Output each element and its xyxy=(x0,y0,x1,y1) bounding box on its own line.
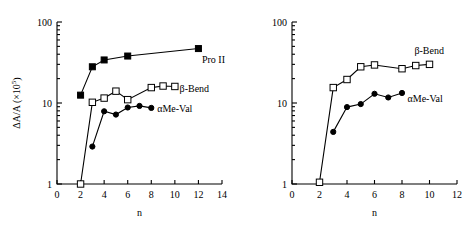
series-annotation-label: β-Bend xyxy=(180,83,210,94)
chart-svg: 024681012110100nβ-BendαMe-Val xyxy=(235,0,469,234)
y-tick-label: 10 xyxy=(277,98,287,109)
marker-filled-square xyxy=(78,92,84,98)
data-series xyxy=(77,83,178,187)
marker-open-square xyxy=(316,179,322,185)
marker-filled-square xyxy=(125,53,131,59)
marker-open-square xyxy=(399,66,405,72)
marker-open-square xyxy=(344,76,350,82)
marker-filled-circle xyxy=(358,101,363,106)
marker-filled-circle xyxy=(344,104,349,109)
marker-open-square xyxy=(101,95,107,101)
marker-filled-circle xyxy=(399,90,404,95)
marker-filled-circle xyxy=(125,105,130,110)
data-series xyxy=(316,61,432,185)
x-tick-label: 4 xyxy=(102,189,107,200)
x-tick-label: 10 xyxy=(170,189,180,200)
marker-open-square xyxy=(371,62,377,68)
axes: 02468101214110100 xyxy=(37,17,227,201)
marker-open-square xyxy=(172,83,178,89)
series-line xyxy=(320,64,430,182)
x-tick-label: 12 xyxy=(452,189,462,200)
y-tick-label: 100 xyxy=(37,17,52,28)
y-tick-label: 1 xyxy=(47,179,52,190)
data-series xyxy=(331,90,405,134)
marker-filled-circle xyxy=(113,112,118,117)
marker-filled-square xyxy=(101,57,107,63)
x-tick-label: 6 xyxy=(372,189,377,200)
x-axis-title: n xyxy=(137,207,142,218)
x-tick-label: 0 xyxy=(290,189,295,200)
marker-filled-circle xyxy=(137,103,142,108)
y-tick-label: 10 xyxy=(42,98,52,109)
x-tick-label: 8 xyxy=(400,189,405,200)
data-series xyxy=(90,103,154,149)
x-tick-label: 8 xyxy=(149,189,154,200)
series-annotation-label: αMe-Val xyxy=(408,93,443,104)
x-tick-label: 14 xyxy=(217,189,227,200)
marker-open-square xyxy=(148,84,154,90)
x-tick-label: 12 xyxy=(193,189,203,200)
x-tick-label: 6 xyxy=(125,189,130,200)
marker-filled-circle xyxy=(386,95,391,100)
marker-filled-square xyxy=(89,64,95,70)
y-tick-label: 1 xyxy=(282,179,287,190)
marker-filled-circle xyxy=(149,105,154,110)
series-annotation-label: β-Bend xyxy=(414,45,444,56)
figure-two-panel-log-plots: 02468101214110100nΔA/A (×105)Pro IIβ-Ben… xyxy=(0,0,469,234)
marker-open-square xyxy=(160,83,166,89)
marker-open-square xyxy=(125,96,131,102)
marker-filled-square xyxy=(195,46,201,52)
marker-filled-circle xyxy=(90,144,95,149)
x-tick-label: 4 xyxy=(345,189,350,200)
marker-filled-circle xyxy=(331,129,336,134)
x-tick-label: 2 xyxy=(317,189,322,200)
y-tick-label: 100 xyxy=(272,17,287,28)
marker-open-square xyxy=(113,88,119,94)
axes: 024681012110100 xyxy=(272,17,462,201)
series-annotation-label: Pro II xyxy=(202,54,225,65)
chart-panel-right: 024681012110100nβ-BendαMe-Val xyxy=(235,0,469,234)
y-axis-title: ΔA/A (×105) xyxy=(10,77,23,128)
x-tick-label: 10 xyxy=(425,189,435,200)
x-tick-label: 0 xyxy=(55,189,60,200)
marker-open-square xyxy=(330,84,336,90)
marker-open-square xyxy=(89,99,95,105)
marker-open-square xyxy=(358,64,364,70)
marker-open-square xyxy=(77,181,83,187)
x-tick-label: 2 xyxy=(78,189,83,200)
x-axis-title: n xyxy=(372,207,377,218)
chart-svg: 02468101214110100nΔA/A (×105)Pro IIβ-Ben… xyxy=(0,0,234,234)
marker-filled-circle xyxy=(102,109,107,114)
marker-open-square xyxy=(426,61,432,67)
chart-panel-left: 02468101214110100nΔA/A (×105)Pro IIβ-Ben… xyxy=(0,0,234,234)
series-line xyxy=(333,93,402,132)
series-annotation-label: αMe-Val xyxy=(157,103,192,114)
marker-open-square xyxy=(413,62,419,68)
marker-filled-circle xyxy=(372,91,377,96)
